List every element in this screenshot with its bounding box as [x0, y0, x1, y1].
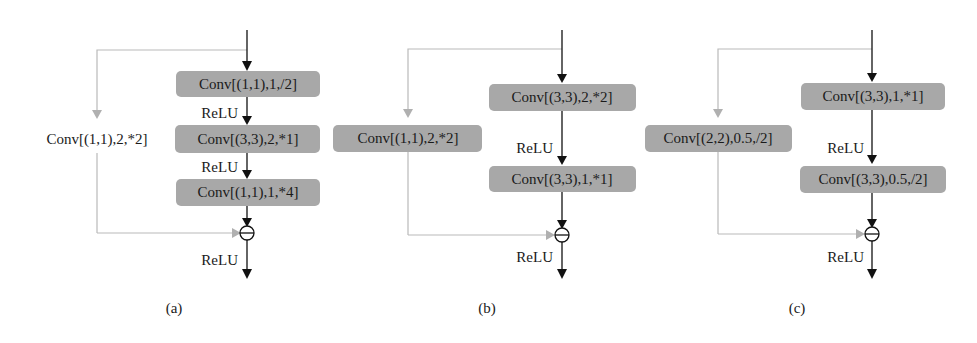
conv-block-1-label: Conv[(3,3),1,*1]: [822, 88, 923, 105]
activation-label: ReLU: [201, 105, 238, 121]
conv-block-1-label: Conv[(3,3),2,*2]: [511, 89, 612, 106]
activation-label: ReLU: [827, 140, 864, 156]
arrowhead-down: [557, 156, 567, 165]
conv-block-2-label: Conv[(3,3),0.5,/2]: [818, 171, 927, 188]
shortcut-arrowhead-right: [546, 230, 555, 240]
conv-block-1-label: Conv[(1,1),1,/2]: [199, 76, 297, 93]
arrowhead-down: [867, 269, 877, 279]
conv-block-2-label: Conv[(3,3),1,*1]: [511, 171, 612, 188]
arrowhead-down: [242, 61, 252, 71]
arrowhead-down: [867, 73, 877, 82]
output-activation-label: ReLU: [827, 249, 864, 265]
panel-a: Conv[(1,1),2,*2] Conv[(1,1),1,/2] ReLU C…: [46, 30, 320, 317]
output-activation-label: ReLU: [516, 249, 553, 265]
conv-block-2-label: Conv[(3,3),2,*1]: [197, 131, 298, 148]
arrowhead-down: [557, 269, 567, 279]
shortcut-label: Conv[(2,2),0.5,/2]: [663, 130, 772, 147]
conv-block-3-label: Conv[(1,1),1,*4]: [197, 184, 298, 201]
panel-b: Conv[(1,1),2,*2] Conv[(3,3),2,*2] ReLU C…: [333, 30, 636, 317]
activation-label: ReLU: [516, 140, 553, 156]
shortcut-arrowhead-right: [856, 229, 865, 239]
diagram-svg: Conv[(1,1),2,*2] Conv[(1,1),1,/2] ReLU C…: [0, 0, 977, 343]
shortcut-arrowhead-down: [713, 109, 723, 118]
arrowhead-down: [242, 269, 252, 279]
shortcut-label: Conv[(1,1),2,*2]: [46, 131, 147, 148]
panel-caption: (b): [478, 300, 496, 317]
panel-caption: (c): [789, 300, 806, 317]
activation-label: ReLU: [201, 159, 238, 175]
arrowhead-down: [242, 170, 252, 179]
arrowhead-down: [557, 74, 567, 83]
shortcut-label: Conv[(1,1),2,*2]: [357, 130, 458, 147]
shortcut-arrowhead-down: [403, 109, 413, 118]
panel-c: Conv[(2,2),0.5,/2] Conv[(3,3),1,*1] ReLU…: [645, 30, 946, 317]
panel-caption: (a): [166, 300, 183, 317]
arrowhead-down: [242, 116, 252, 125]
shortcut-arrowhead-down: [92, 110, 102, 119]
output-activation-label: ReLU: [201, 252, 238, 268]
residual-blocks-figure: Conv[(1,1),2,*2] Conv[(1,1),1,/2] ReLU C…: [0, 0, 977, 343]
arrowhead-down: [867, 155, 877, 164]
